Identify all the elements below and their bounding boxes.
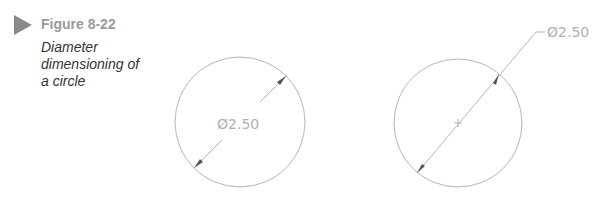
arrow-head-icon	[417, 164, 425, 173]
left-dimension-text: Ø2.50	[217, 116, 259, 132]
center-mark-icon	[454, 119, 462, 127]
right-circle-dimension: Ø2.50	[394, 24, 589, 187]
arrow-head-icon	[493, 74, 499, 85]
right-dimension-text: Ø2.50	[547, 24, 589, 40]
left-circle-dimension: Ø2.50	[175, 57, 305, 187]
cad-drawing: Ø2.50 Ø2.50	[0, 0, 606, 197]
